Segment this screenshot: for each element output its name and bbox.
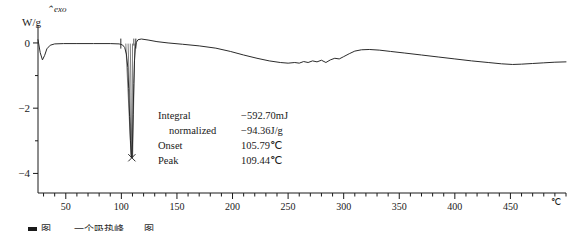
x-tick-label: 400 <box>435 201 475 212</box>
y-tick-label: −4 <box>8 167 30 179</box>
annotation-row: normalized−94.36J/g <box>158 125 288 140</box>
x-tick-label: 100 <box>101 201 141 212</box>
annotation-row: Onset105.79℃ <box>158 140 288 155</box>
y-tick-label: 0 <box>8 37 30 49</box>
annotation-label: Onset <box>158 140 241 155</box>
dsc-curve <box>38 39 566 158</box>
x-tick-label: 300 <box>324 201 364 212</box>
integration-markers <box>121 39 136 162</box>
annotation-value: 109.44℃ <box>241 155 288 170</box>
caption-text: 图…… 一个吸热峰……图 <box>41 224 154 231</box>
figure-caption: 图…… 一个吸热峰……图 <box>28 221 154 231</box>
annotation-table: Integral−592.70mJnormalized−94.36J/gOnse… <box>158 110 288 170</box>
y-tick-label: −2 <box>8 102 30 114</box>
dsc-thermogram-figure: ⌃exo W/g 0−2−4 5010015020025030035040045… <box>0 0 576 231</box>
axes <box>33 25 566 199</box>
annotation-row: Integral−592.70mJ <box>158 110 288 125</box>
annotation-label: Peak <box>158 155 241 170</box>
integration-results-annotation: Integral−592.70mJnormalized−94.36J/gOnse… <box>158 110 288 170</box>
x-axis-unit-label: ℃ <box>551 197 561 207</box>
annotation-label: normalized <box>158 125 241 140</box>
annotation-value: −94.36J/g <box>241 125 288 140</box>
x-tick-label: 450 <box>490 201 530 212</box>
annotation-label: Integral <box>158 110 241 125</box>
caption-bullet-icon <box>28 227 37 232</box>
annotation-row: Peak109.44℃ <box>158 155 288 170</box>
annotation-value: 105.79℃ <box>241 140 288 155</box>
x-tick-label: 50 <box>46 201 86 212</box>
x-tick-label: 350 <box>379 201 419 212</box>
x-tick-label: 150 <box>157 201 197 212</box>
annotation-value: −592.70mJ <box>241 110 288 125</box>
x-tick-label: 250 <box>268 201 308 212</box>
x-tick-label: 200 <box>213 201 253 212</box>
